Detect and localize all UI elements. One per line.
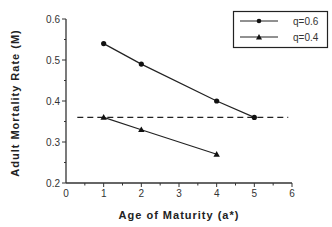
circle-marker-icon: [257, 19, 262, 24]
x-tick-label: 2: [139, 188, 145, 199]
x-axis-ticks: 0123456: [63, 183, 295, 199]
series-q04: [100, 114, 219, 157]
x-tick-label: 3: [176, 188, 182, 199]
x-tick-label: 5: [252, 188, 258, 199]
circle-marker-icon: [139, 62, 144, 67]
x-tick-label: 1: [101, 188, 107, 199]
x-tick-label: 6: [289, 188, 295, 199]
x-tick-label: 0: [63, 188, 69, 199]
y-tick-label: 0.5: [46, 55, 60, 66]
y-tick-label: 0.3: [46, 137, 60, 148]
y-axis-ticks: 0.20.30.40.50.6: [46, 14, 66, 189]
y-tick-label: 0.6: [46, 14, 60, 25]
data-series: [100, 41, 256, 157]
y-axis-title: Adult Mortality Rate (M): [9, 29, 21, 176]
circle-marker-icon: [252, 115, 257, 120]
legend-label-q04: q=0.4: [293, 32, 319, 43]
x-tick-label: 4: [214, 188, 220, 199]
circle-marker-icon: [101, 41, 106, 46]
x-axis-title: Age of Maturity (a*): [119, 209, 240, 221]
y-tick-label: 0.2: [46, 178, 60, 189]
chart: 0.20.30.40.50.6 0123456 Age of Maturity …: [0, 0, 332, 227]
legend-label-q06: q=0.6: [293, 16, 319, 27]
circle-marker-icon: [214, 98, 219, 103]
series-q06: [101, 41, 257, 120]
legend: q=0.6 q=0.4: [234, 12, 328, 48]
y-tick-label: 0.4: [46, 96, 60, 107]
